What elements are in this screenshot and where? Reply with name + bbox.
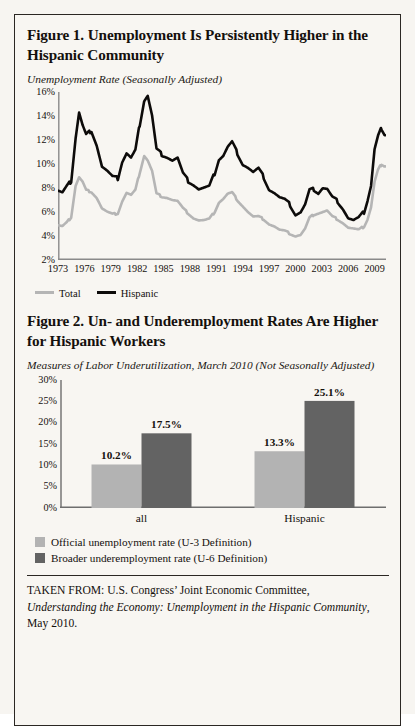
figure1-legend: TotalHispanic xyxy=(27,283,389,301)
figure1-plot-svg xyxy=(58,92,386,260)
figure1-legend-swatch xyxy=(97,291,116,294)
source-line-3: May 2010. xyxy=(27,617,77,630)
figure1-x-tick: 1985 xyxy=(153,264,173,274)
figure1-x-tick: 1982 xyxy=(127,264,147,274)
figure1-y-tick: 8% xyxy=(41,183,55,193)
figure1-x-tick: 2003 xyxy=(312,264,332,274)
source-line-2-title: Understanding the Economy: Unemployment … xyxy=(27,601,367,614)
figure1-x-tick: 2009 xyxy=(364,264,384,274)
source-line-2-tail: , xyxy=(367,601,370,614)
figure2-legend-swatch xyxy=(35,553,45,563)
figure2-y-tick: 15% xyxy=(38,439,57,449)
figure2-y-tick: 25% xyxy=(38,396,57,406)
figure1-x-axis-labels: 1973197619791982198519881991199419972000… xyxy=(58,262,386,278)
figure2-bar-chart: 0%5%10%15%20%25%30% 10.2%17.5%13.3%25.1%… xyxy=(27,380,389,530)
figure1-x-tick: 2006 xyxy=(338,264,358,274)
figure1-y-tick: 12% xyxy=(36,135,55,145)
figure1-x-tick: 1991 xyxy=(206,264,226,274)
figure2-y-tick: 10% xyxy=(38,460,57,470)
figure1-legend-item: Total xyxy=(35,288,81,299)
figure2-legend-item: Official unemployment rate (U-3 Definiti… xyxy=(35,535,389,551)
figure2-x-tick: Hispanic xyxy=(284,513,325,524)
figure1-subtitle: Unemployment Rate (Seasonally Adjusted) xyxy=(27,72,389,87)
figure2-legend-label: Official unemployment rate (U-3 Definiti… xyxy=(51,536,251,548)
figure1-y-tick: 6% xyxy=(41,207,55,217)
figure1-x-tick: 1997 xyxy=(259,264,279,274)
figure2-title: Figure 2. Un- and Underemployment Rates … xyxy=(27,311,389,351)
figure2-y-tick: 30% xyxy=(38,375,57,385)
figure1-x-tick: 1988 xyxy=(180,264,200,274)
figure2-x-axis-labels: allHispanic xyxy=(60,510,386,526)
figure1-title: Figure 1. Unemployment Is Persistently H… xyxy=(27,25,389,65)
figure1-y-tick: 4% xyxy=(41,231,55,241)
figure2-y-tick: 5% xyxy=(43,481,57,491)
figure2-x-tick: all xyxy=(136,513,147,524)
figure2-legend-item: Broader underemployment rate (U-6 Defini… xyxy=(35,551,389,567)
figure1-y-tick: 10% xyxy=(36,159,55,169)
figure2-y-axis-labels: 0%5%10%15%20%25%30% xyxy=(27,380,57,508)
figure1-x-tick: 2000 xyxy=(285,264,305,274)
svg-text:25.1%: 25.1% xyxy=(314,386,345,398)
figure1-legend-label: Hispanic xyxy=(121,288,159,299)
svg-text:17.5%: 17.5% xyxy=(151,418,182,430)
figure1-legend-swatch xyxy=(35,291,54,294)
svg-text:10.2%: 10.2% xyxy=(101,449,132,461)
figure1-x-tick: 1973 xyxy=(48,264,68,274)
figure1-plot-area xyxy=(58,92,386,260)
figure1-line-chart: 2%4%6%8%10%12%14%16% 1973197619791982198… xyxy=(27,92,389,282)
source-line-1: TAKEN FROM: U.S. Congress’ Joint Economi… xyxy=(27,584,310,597)
figure2-plot-svg: 10.2%17.5%13.3%25.1% xyxy=(60,380,386,508)
figure1-legend-label: Total xyxy=(59,288,81,299)
figure-box: Figure 1. Unemployment Is Persistently H… xyxy=(14,14,401,726)
figure1-x-tick: 1979 xyxy=(101,264,121,274)
figure1-y-tick: 16% xyxy=(36,87,55,97)
figure2-y-tick: 20% xyxy=(38,417,57,427)
figure1-x-tick: 1976 xyxy=(74,264,94,274)
source-divider xyxy=(27,575,389,576)
figure1-x-tick: 1994 xyxy=(232,264,252,274)
figure1-y-axis-labels: 2%4%6%8%10%12%14%16% xyxy=(27,92,55,260)
figure2-plot-area: 10.2%17.5%13.3%25.1% xyxy=(60,380,386,508)
figure2-subtitle: Measures of Labor Underutilization, Marc… xyxy=(27,358,389,373)
figure2-legend-swatch xyxy=(35,537,45,547)
figure2-legend-label: Broader underemployment rate (U-6 Defini… xyxy=(51,552,267,564)
figure2-y-tick: 0% xyxy=(43,503,57,513)
figure1-legend-item: Hispanic xyxy=(97,288,159,299)
figure2-legend: Official unemployment rate (U-3 Definiti… xyxy=(27,535,389,567)
figure-content: Figure 1. Unemployment Is Persistently H… xyxy=(27,25,389,633)
figure1-y-tick: 14% xyxy=(36,111,55,121)
source-attribution: TAKEN FROM: U.S. Congress’ Joint Economi… xyxy=(27,583,389,632)
svg-text:13.3%: 13.3% xyxy=(264,436,295,448)
